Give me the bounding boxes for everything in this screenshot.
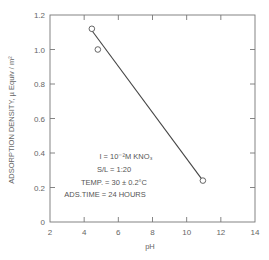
annotation-block: I = 10⁻²M KNO₃ S/L = 1:20 TEMP. = 30 ± 0… [64,152,152,199]
data-point-marker [200,178,206,184]
x-tick-label: 8 [150,228,155,237]
y-tick-label: 0.6 [34,115,46,124]
annotation-temperature: TEMP. = 30 ± 0.2°C [81,178,148,187]
y-tick-label: 0.4 [34,149,46,158]
x-tick-label: 12 [216,228,225,237]
y-tick-label: 0 [41,218,46,227]
y-tick-labels: 00.20.40.60.81.01.2 [34,11,46,227]
y-tick-label: 1.2 [34,11,46,20]
x-axis-label: pH [145,242,155,251]
y-tick-label: 1.0 [34,46,46,55]
x-tick-label: 6 [116,228,121,237]
x-tick-label: 10 [182,228,191,237]
data-point-marker [89,26,95,32]
chart: 2468101214 00.20.40.60.81.01.2 pH ADSORP… [0,0,269,260]
data-point-marker [95,47,101,53]
annotation-ionic-strength: I = 10⁻²M KNO₃ [99,152,152,161]
annotation-adsorption-time: ADS.TIME = 24 HOURS [64,190,145,199]
y-tick-label: 0.8 [34,80,46,89]
x-tick-label: 14 [251,228,260,237]
x-tick-labels: 2468101214 [48,228,260,237]
y-axis-label-unit: µ Equiv / m² [7,56,16,97]
x-tick-label: 2 [48,228,53,237]
x-tick-label: 4 [82,228,87,237]
y-axis-label-main: ADSORPTION DENSITY, [7,96,16,183]
y-tick-label: 0.2 [34,184,46,193]
annotation-solid-liquid: S/L = 1:20 [97,165,131,174]
y-axis-label: ADSORPTION DENSITY, µ Equiv / m² [7,56,16,184]
